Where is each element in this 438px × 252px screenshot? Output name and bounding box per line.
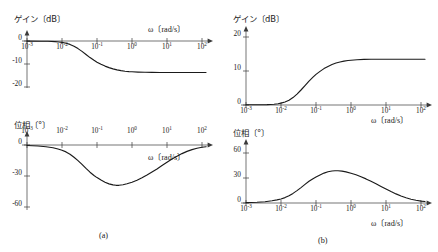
ytick-b-gain-2: 20 [219,29,241,38]
axis-title-gain-b: ゲイン〔dB〕 [233,12,284,24]
ytick-a-gain-0: 0 [0,33,22,42]
xtick-b-phase-1: 10-2 [267,205,295,213]
xtick-b-phase-4: 101 [372,205,400,213]
xtick-b-phase-0: 10-3 [232,205,260,213]
ytick-b-phase-1: 30 [219,170,241,179]
xtick-b-gain-3: 100 [337,107,365,115]
chart-b-phase: 位相〔°〕 ω〔rad/s〕 10-3 10-2 10-1 100 101 [219,126,438,230]
xtick-a-gain-2: 10-1 [83,43,111,51]
ytick-a-phase-2: -60 [0,199,22,208]
caption-b: (b) [318,236,328,245]
xtick-b-phase-5: 102 [407,205,435,213]
chart-a-gain: ゲイン〔dB〕 ω〔rad/s〕 10-3 10-2 10-1 [0,0,219,110]
ytick-b-gain-0: 0 [219,97,241,106]
xtick-a-gain-1: 10-2 [48,43,76,51]
xtick-b-phase-3: 100 [337,205,365,213]
xtick-b-gain-5: 102 [407,107,435,115]
xtick-b-gain-4: 101 [372,107,400,115]
xtick-b-phase-2: 10-1 [302,205,330,213]
ytick-b-phase-0: 0 [219,195,241,204]
axis-title-phase-b: 位相〔°〕 [233,126,269,138]
ytick-a-gain-2: -20 [0,79,22,88]
xtick-a-gain-3: 100 [118,43,146,51]
xtick-a-phase-4: 101 [153,127,181,135]
ytick-b-gain-1: 10 [219,63,241,72]
xtick-a-gain-4: 101 [153,43,181,51]
omega-label-a-phase: ω〔rad/s〕 [148,150,185,162]
chart-b-phase-svg [219,126,438,230]
xtick-a-phase-0: 10-3 [13,127,41,135]
ytick-a-phase-1: -30 [0,168,22,177]
xtick-b-gain-1: 10-2 [267,107,295,115]
xtick-a-phase-1: 10-2 [48,127,76,135]
ytick-a-gain-1: -10 [0,56,22,65]
xtick-a-phase-2: 10-1 [83,127,111,135]
omega-label-a-gain: ω〔rad/s〕 [148,22,185,34]
xtick-a-phase-3: 100 [118,127,146,135]
xtick-a-gain-0: 10-3 [13,43,41,51]
ytick-b-phase-2: 60 [219,145,241,154]
xtick-a-gain-5: 102 [188,43,216,51]
axis-title-gain-a: ゲイン〔dB〕 [14,12,65,24]
chart-b-gain: ゲイン〔dB〕 ω〔rad/s〕 10-3 10-2 10-1 100 101 [219,0,438,112]
xtick-b-gain-0: 10-3 [232,107,260,115]
ytick-a-phase-0: 0 [0,137,22,146]
chart-a-phase: 位相〔°〕 ω〔rad/s〕 10-3 10-2 10-1 100 101 [0,118,219,230]
omega-label-b-phase: ω〔rad/s〕 [371,216,408,228]
xtick-a-phase-5: 102 [188,127,216,135]
caption-a: (a) [99,231,108,240]
xtick-b-gain-2: 10-1 [302,107,330,115]
